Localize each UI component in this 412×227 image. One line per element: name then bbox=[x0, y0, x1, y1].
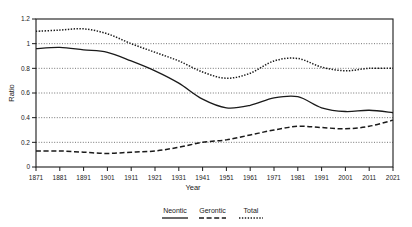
x-tick-label-1901: 1901 bbox=[100, 174, 115, 181]
x-tick-label-1971: 1971 bbox=[267, 174, 282, 181]
y-tick-label-0.4: 0.4 bbox=[21, 114, 30, 121]
x-tick-label-2011: 2011 bbox=[362, 174, 376, 181]
y-tick-label-0.2: 0.2 bbox=[21, 139, 30, 146]
chart-background bbox=[0, 0, 412, 227]
y-tick-label-0: 0 bbox=[26, 163, 30, 170]
x-tick-label-1951: 1951 bbox=[219, 174, 234, 181]
y-tick-label-0.6: 0.6 bbox=[21, 89, 30, 96]
y-tick-label-0.8: 0.8 bbox=[21, 65, 30, 72]
x-tick-label-1871: 1871 bbox=[29, 174, 44, 181]
legend-label-gerontic: Gerontic bbox=[199, 207, 226, 214]
line-chart-figure: 00.20.40.60.811.2 1871188118911901191119… bbox=[0, 0, 412, 227]
legend-label-total: Total bbox=[244, 207, 259, 214]
x-tick-label-1981: 1981 bbox=[291, 174, 306, 181]
x-tick-label-2001: 2001 bbox=[338, 174, 353, 181]
x-tick-label-2021: 2021 bbox=[386, 174, 401, 181]
x-tick-label-1921: 1921 bbox=[148, 174, 163, 181]
x-tick-label-1891: 1891 bbox=[76, 174, 91, 181]
x-tick-label-1991: 1991 bbox=[314, 174, 329, 181]
y-axis-title: Ratio bbox=[7, 84, 16, 102]
x-tick-label-1931: 1931 bbox=[172, 174, 187, 181]
x-tick-label-1961: 1961 bbox=[243, 174, 258, 181]
legend-label-neontic: Neontic bbox=[163, 207, 187, 214]
y-tick-label-1: 1 bbox=[26, 40, 30, 47]
x-tick-label-1881: 1881 bbox=[53, 174, 68, 181]
y-tick-label-1.2: 1.2 bbox=[21, 15, 30, 22]
x-tick-label-1941: 1941 bbox=[195, 174, 210, 181]
x-tick-label-1911: 1911 bbox=[124, 174, 138, 181]
x-axis-title: Year bbox=[185, 183, 201, 192]
